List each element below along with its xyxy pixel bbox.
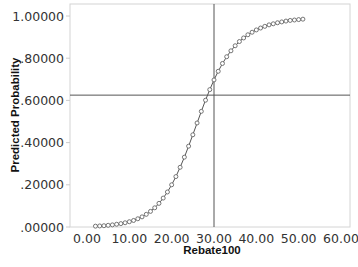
data-point-marker xyxy=(178,165,182,169)
data-point-marker xyxy=(102,224,106,228)
data-point-marker xyxy=(250,30,254,34)
data-point-marker xyxy=(191,133,195,137)
data-point-marker xyxy=(153,206,157,210)
data-point-marker xyxy=(170,183,174,187)
data-point-marker xyxy=(132,218,136,222)
data-point-marker xyxy=(127,220,131,224)
data-point-marker xyxy=(301,17,305,21)
data-point-marker xyxy=(292,18,296,22)
data-point-marker xyxy=(216,69,220,73)
y-tick-label: .40000 xyxy=(20,135,64,150)
data-point-marker xyxy=(140,215,144,219)
data-point-marker xyxy=(284,19,288,23)
data-point-marker xyxy=(149,209,153,213)
y-tick-label: 1.00000 xyxy=(12,9,64,24)
data-point-marker xyxy=(199,109,203,113)
data-point-marker xyxy=(225,55,229,59)
data-point-marker xyxy=(259,26,263,30)
data-point-marker xyxy=(182,155,186,159)
data-point-marker xyxy=(280,20,284,24)
data-point-marker xyxy=(174,175,178,179)
x-tick-label: 60.00 xyxy=(323,231,358,246)
data-point-marker xyxy=(115,222,119,226)
x-tick-label: 10.00 xyxy=(111,231,147,246)
y-tick-label: .60000 xyxy=(20,93,64,108)
data-point-marker xyxy=(254,28,258,32)
data-point-marker xyxy=(165,190,169,194)
data-point-marker xyxy=(123,221,127,225)
data-point-marker xyxy=(157,201,161,205)
data-point-marker xyxy=(276,21,280,25)
data-point-marker xyxy=(136,217,140,221)
data-point-marker xyxy=(271,22,275,26)
x-axis-title: Rebate100 xyxy=(183,244,241,256)
data-point-marker xyxy=(208,88,212,92)
data-point-marker xyxy=(288,18,292,22)
data-point-marker xyxy=(106,223,110,227)
data-point-marker xyxy=(229,49,233,53)
data-point-marker xyxy=(263,24,267,28)
data-point-marker xyxy=(212,78,216,82)
data-point-marker xyxy=(93,224,97,228)
y-tick-label: .00000 xyxy=(20,220,64,235)
chart: .00000.20000.40000.60000.800001.00000 0.… xyxy=(0,0,358,267)
data-point-marker xyxy=(220,61,224,65)
data-point-marker xyxy=(119,222,123,226)
data-point-marker xyxy=(246,33,250,37)
x-tick-label: 50.00 xyxy=(281,231,317,246)
y-axis-title: Predicted Probability xyxy=(9,57,21,173)
data-point-marker xyxy=(98,224,102,228)
data-point-marker xyxy=(267,23,271,27)
x-tick-label: 40.00 xyxy=(238,231,274,246)
data-point-marker xyxy=(297,18,301,22)
y-tick-label: .80000 xyxy=(20,51,64,66)
data-point-marker xyxy=(161,196,165,200)
data-point-marker xyxy=(237,40,241,44)
data-point-marker xyxy=(110,223,114,227)
data-point-marker xyxy=(233,44,237,48)
plot-frame xyxy=(70,4,350,227)
data-point-marker xyxy=(187,144,191,148)
data-point-marker xyxy=(242,36,246,40)
data-point-marker xyxy=(204,98,208,102)
data-point-marker xyxy=(144,212,148,216)
data-point-marker xyxy=(195,121,199,125)
y-tick-label: .20000 xyxy=(20,177,64,192)
x-tick-label: 0.00 xyxy=(73,231,101,246)
